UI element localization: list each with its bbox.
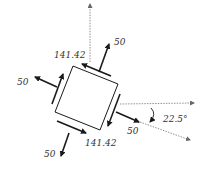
rotated-axis [140, 122, 190, 140]
label-angle: 22.5° [162, 114, 188, 124]
horizontal-axis [120, 103, 194, 104]
label-shear-bottom: 141.42 [85, 138, 117, 148]
label-normal-bottom: 50 [44, 149, 56, 159]
shear-arrow-top [82, 64, 111, 76]
diagram-svg: 141.42 50 50 50 22.5° 141.42 50 [0, 0, 201, 169]
label-shear-top: 141.42 [54, 50, 86, 60]
shear-arrow-right [108, 94, 120, 126]
normal-arrow-right [116, 112, 139, 122]
normal-arrow-bottom [61, 133, 69, 156]
normal-arrow-top [99, 44, 109, 72]
label-normal-left: 50 [17, 77, 29, 87]
label-normal-top-right: 50 [114, 37, 126, 47]
stress-element-diagram: 141.42 50 50 50 22.5° 141.42 50 [0, 0, 201, 169]
angle-arc [150, 108, 154, 122]
normal-arrow-left [35, 77, 57, 87]
shear-arrow-left [52, 74, 63, 104]
label-normal-right: 50 [127, 126, 139, 136]
